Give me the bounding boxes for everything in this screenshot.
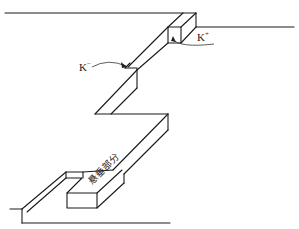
k-minus-label: K− (79, 60, 91, 73)
k-minus-arrow (92, 62, 126, 67)
k-plus-arrowhead (171, 36, 176, 42)
bottom-left-strip (10, 172, 66, 223)
k-plus-label: K+ (197, 30, 209, 43)
lower-diagonal-strip (113, 114, 168, 174)
k-plus-arrow (172, 39, 214, 45)
middle-diagonal-strip (95, 70, 168, 114)
kink-diagram: K− K+ 悬垂部分 (0, 0, 299, 229)
upper-diagonal-strip (125, 27, 168, 88)
k-minus-arrowhead (121, 62, 127, 68)
overhang-label: 悬垂部分 (86, 150, 122, 186)
